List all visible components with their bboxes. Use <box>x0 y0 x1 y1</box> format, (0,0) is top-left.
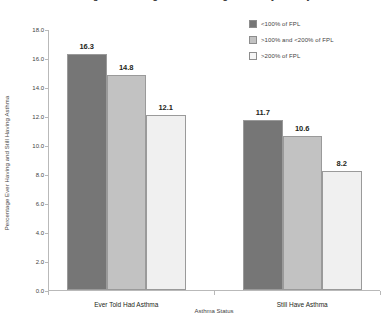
y-axis-tick-label: 12.0 <box>18 114 44 120</box>
y-axis-title-text: Percentage Ever Having and Still Having … <box>4 96 10 231</box>
bar[interactable] <box>146 115 186 290</box>
y-axis-tick-mark <box>45 30 48 31</box>
y-axis-tick-mark <box>45 59 48 60</box>
bar-value-label: 8.2 <box>337 159 347 168</box>
y-axis-tick-mark <box>45 262 48 263</box>
bar[interactable] <box>67 54 107 290</box>
y-axis-tick-label: 16.0 <box>18 56 44 62</box>
x-axis-group-label: Ever Told Had Asthma <box>94 301 158 308</box>
bar[interactable] <box>322 171 362 290</box>
y-axis-tick-label: 4.0 <box>18 230 44 236</box>
y-axis-tick-mark <box>45 117 48 118</box>
x-axis-group-label: Still Have Asthma <box>277 301 328 308</box>
y-axis-tick-label: 8.0 <box>18 172 44 178</box>
bar-value-label: 14.8 <box>119 63 134 72</box>
y-axis-tick-mark <box>45 233 48 234</box>
y-axis-line <box>48 30 49 291</box>
y-axis-tick-label: 0.0 <box>18 288 44 294</box>
bar[interactable] <box>107 75 147 290</box>
bar-value-label: 16.3 <box>79 42 94 51</box>
x-axis-tick-mark <box>380 291 381 295</box>
legend-item-series-1: <100% of FPL <box>249 17 389 30</box>
bar-value-label: 12.1 <box>158 103 173 112</box>
bar-value-label: 11.7 <box>256 108 270 117</box>
y-axis-tick-mark <box>45 204 48 205</box>
plot-area: 0.02.04.06.08.010.012.014.016.018.0 16.3… <box>48 30 380 291</box>
bar[interactable] <box>243 120 283 290</box>
y-axis-tick-label: 10.0 <box>18 143 44 149</box>
y-axis-tick-label: 2.0 <box>18 259 44 265</box>
y-axis-tick-label: 14.0 <box>18 85 44 91</box>
legend-label-series-1: <100% of FPL <box>261 21 300 27</box>
x-axis-tick-mark <box>214 291 215 295</box>
y-axis-tick-mark <box>45 146 48 147</box>
bar-value-label: 10.6 <box>295 124 310 133</box>
y-axis-tick-label: 6.0 <box>18 201 44 207</box>
y-axis-tick-label: 18.0 <box>18 27 44 33</box>
x-axis-title: Asthma Status <box>48 308 380 314</box>
x-axis-tick-mark <box>48 291 49 295</box>
y-axis-tick-mark <box>45 175 48 176</box>
chart-title: Percentage Ever Having and Still Having … <box>0 0 392 1</box>
y-axis-title: Percentage Ever Having and Still Having … <box>0 48 14 278</box>
bar[interactable] <box>283 136 323 290</box>
legend-swatch-icon-series-1 <box>249 20 257 28</box>
y-axis-tick-mark <box>45 88 48 89</box>
